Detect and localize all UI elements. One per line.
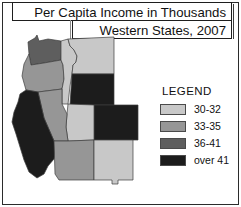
legend-label-36-41: 36-41 bbox=[194, 138, 221, 149]
legend: LEGEND 30-32 33-35 36-41 over 41 bbox=[160, 86, 238, 178]
legend-item-36-41[interactable]: 36-41 bbox=[160, 136, 238, 151]
legend-label-30-32: 30-32 bbox=[194, 104, 221, 115]
legend-swatch-36-41 bbox=[160, 138, 186, 149]
western-states-map bbox=[4, 32, 164, 200]
legend-label-over-41: over 41 bbox=[194, 155, 229, 166]
state-wyoming[interactable] bbox=[70, 74, 114, 105]
legend-swatch-30-32 bbox=[160, 104, 186, 115]
legend-item-33-35[interactable]: 33-35 bbox=[160, 119, 238, 134]
legend-swatch-over-41 bbox=[160, 155, 186, 166]
legend-item-over-41[interactable]: over 41 bbox=[160, 153, 238, 168]
title-shadow-right bbox=[233, 4, 235, 39]
state-arizona[interactable] bbox=[54, 140, 94, 180]
legend-swatch-33-35 bbox=[160, 121, 186, 132]
legend-item-30-32[interactable]: 30-32 bbox=[160, 102, 238, 117]
figure-root: Per Capita Income in Thousands Western S… bbox=[0, 0, 241, 207]
state-utah[interactable] bbox=[66, 104, 94, 141]
title-line-1: Per Capita Income in Thousands bbox=[12, 2, 232, 21]
state-new-mexico[interactable] bbox=[94, 140, 133, 184]
legend-heading: LEGEND bbox=[162, 86, 238, 98]
state-colorado[interactable] bbox=[94, 105, 138, 140]
map-container bbox=[4, 32, 164, 200]
legend-label-33-35: 33-35 bbox=[194, 121, 221, 132]
